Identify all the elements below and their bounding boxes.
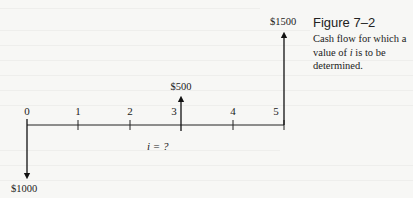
period-label-2: 2 (127, 106, 133, 117)
period-label-3: 3 (171, 106, 177, 117)
period-label-4: 4 (230, 106, 236, 117)
interest-rate-label: i = ? (147, 141, 168, 152)
period-label-5: 5 (273, 106, 279, 117)
period-label-0: 0 (24, 106, 30, 117)
cash-flow-label-1500: $1500 (270, 17, 296, 28)
period-label-1: 1 (75, 106, 81, 117)
figure-title: Figure 7–2 (313, 15, 375, 30)
figure-caption: Cash flow for which a value of i is to b… (313, 32, 413, 73)
cash-flow-label-500: $500 (171, 82, 192, 93)
cash-flow-label-1000: $1000 (11, 184, 37, 195)
